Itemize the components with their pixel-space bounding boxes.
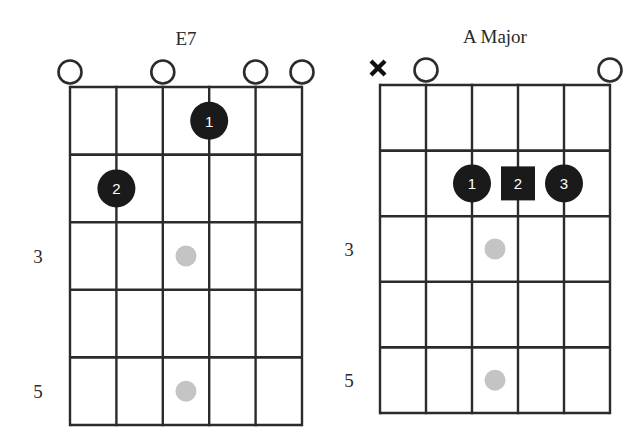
open-string-icon (291, 61, 314, 84)
fret-inlay-dot (485, 370, 506, 391)
fret-number-label: 3 (344, 239, 354, 260)
finger-number: 1 (468, 175, 476, 192)
fret-number-label: 5 (33, 381, 43, 402)
finger-position-marker: 2 (501, 166, 535, 200)
open-string-icon (415, 59, 438, 82)
finger-position-marker: 1 (453, 164, 491, 202)
open-string-icon (59, 61, 82, 84)
open-string-icon (244, 61, 267, 84)
finger-position-marker: 3 (545, 164, 583, 202)
open-string-icon (599, 59, 622, 82)
finger-position-marker: 2 (97, 169, 135, 207)
fret-inlay-dot (485, 239, 506, 260)
fret-inlay-dot (176, 381, 197, 402)
finger-position-marker: 1 (190, 102, 228, 140)
finger-number: 1 (205, 113, 213, 130)
chord-title: E7 (175, 28, 196, 49)
chord-diagrams: E7 3512 A Major 35123 (0, 0, 643, 445)
chord-title: A Major (463, 26, 528, 47)
open-string-icon (151, 61, 174, 84)
finger-number: 2 (112, 180, 120, 197)
chord-diagram-a-major: A Major 35123 (344, 26, 621, 414)
finger-number: 3 (560, 175, 568, 192)
fret-number-label: 3 (33, 246, 43, 267)
chord-diagram-e7: E7 3512 (33, 28, 313, 426)
finger-number: 2 (514, 175, 522, 192)
fret-number-label: 5 (344, 370, 354, 391)
fret-inlay-dot (176, 246, 197, 267)
muted-string-icon (371, 61, 385, 75)
